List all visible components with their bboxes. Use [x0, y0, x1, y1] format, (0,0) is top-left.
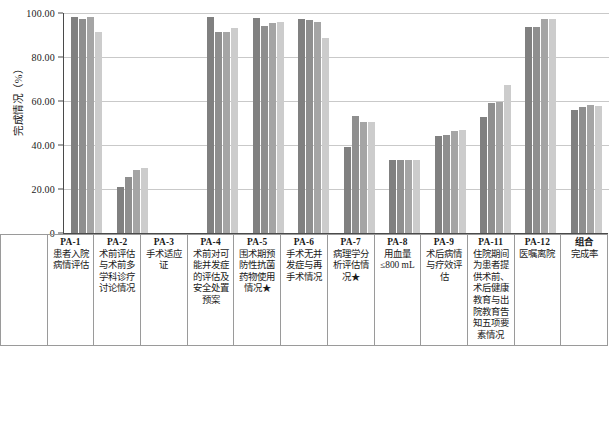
column-header-description: 住院期间为患者提供术前、术后健康教育与出院教育告知五项要素情况 [469, 249, 513, 342]
bar [352, 116, 359, 233]
table-column-header: PA-7病理学分析评估情况★ [327, 235, 374, 346]
bar [261, 26, 268, 233]
bar-chart: 完成情况（%） 020.0040.0060.0080.00100.00 [0, 0, 611, 240]
table-column-header: PA-5围术期预防性抗菌药物使用情况★ [234, 235, 281, 346]
bar [488, 103, 495, 233]
table-column-header: PA-6手术无并发症与再手术情况 [281, 235, 328, 346]
bar [141, 168, 148, 233]
bar [541, 19, 548, 233]
bar [223, 32, 230, 233]
bar-group [518, 13, 563, 233]
chart-and-table-figure: 完成情况（%） 020.0040.0060.0080.00100.00 PA-1… [0, 0, 611, 430]
column-header-description: 术后病情与疗效评估 [422, 249, 466, 284]
table-column-header: PA-11住院期间为患者提供术前、术后健康教育与出院教育告知五项要素情况 [467, 235, 514, 346]
bar [435, 136, 442, 233]
y-tick-label: 20.00 [32, 184, 56, 195]
column-header-code: PA-9 [422, 237, 466, 249]
bar-group [200, 13, 245, 233]
bar [504, 85, 511, 233]
bar-group [337, 13, 382, 233]
bar [480, 117, 487, 233]
bar-group [473, 13, 518, 233]
table-column-header: PA-4术前对可能并发症的评估及安全处置预案 [187, 235, 234, 346]
bar [533, 27, 540, 233]
bar [231, 28, 238, 233]
column-header-code: PA-5 [235, 237, 279, 249]
bar [79, 19, 86, 233]
bar [344, 147, 351, 233]
data-table: PA-1患者入院病情评估PA-2术前评估与术前多学科诊疗讨论情况PA-3手术适应… [0, 234, 608, 346]
bar-group [109, 13, 154, 233]
column-header-description: 医嘱离院 [516, 249, 560, 261]
bar-group [564, 13, 609, 233]
y-tick-label: 40.00 [32, 140, 56, 151]
data-table-wrapper: PA-1患者入院病情评估PA-2术前评估与术前多学科诊疗讨论情况PA-3手术适应… [0, 234, 611, 346]
bar [207, 17, 214, 233]
bar [496, 102, 503, 233]
table-column-header: PA-1患者入院病情评估 [47, 235, 94, 346]
table-column-header: PA-12医嘱离院 [514, 235, 561, 346]
bar [397, 160, 404, 233]
bar [298, 19, 305, 233]
column-header-code: 组合 [562, 237, 606, 249]
column-header-description: 术前评估与术前多学科诊疗讨论情况 [95, 249, 139, 295]
column-header-code: PA-12 [516, 237, 560, 249]
bar [595, 106, 602, 233]
bar [368, 122, 375, 233]
table-column-header: PA-9术后病情与疗效评估 [421, 235, 468, 346]
bar [87, 17, 94, 233]
bar [133, 170, 140, 233]
bar [322, 38, 329, 233]
bar [125, 177, 132, 233]
column-header-code: PA-6 [282, 237, 326, 249]
bar-group [427, 13, 472, 233]
column-header-description: 患者入院病情评估 [49, 249, 93, 272]
column-header-description: 手术无并发症与再手术情况 [282, 249, 326, 284]
column-header-code: PA-3 [142, 237, 186, 249]
bar-group [64, 13, 109, 233]
table-column-header: 组合完成率 [561, 235, 608, 346]
bar [277, 22, 284, 233]
column-header-description: 手术适应证 [142, 249, 186, 272]
column-header-code: PA-1 [49, 237, 93, 249]
column-header-description: 术前对可能并发症的评估及安全处置预案 [189, 249, 233, 307]
column-header-code: PA-2 [95, 237, 139, 249]
bar [451, 131, 458, 233]
column-header-code: PA-7 [329, 237, 373, 249]
column-header-code: PA-11 [469, 237, 513, 249]
column-header-description: 围术期预防性抗菌药物使用情况★ [235, 249, 279, 295]
bar [215, 32, 222, 233]
column-header-code: PA-4 [189, 237, 233, 249]
bar [413, 160, 420, 233]
bar [579, 107, 586, 233]
bar [443, 135, 450, 233]
bar [389, 160, 396, 233]
bar [549, 19, 556, 233]
y-axis-ticks: 020.0040.0060.0080.00100.00 [0, 0, 63, 240]
table-column-header: PA-2术前评估与术前多学科诊疗讨论情况 [94, 235, 141, 346]
bar-series-container [64, 13, 609, 233]
column-header-description: 完成率 [562, 249, 606, 261]
y-tick-label: 80.00 [32, 52, 56, 63]
y-tick-label: 60.00 [32, 96, 56, 107]
table-column-header: PA-3手术适应证 [141, 235, 188, 346]
bar-group [382, 13, 427, 233]
column-header-code: PA-8 [376, 237, 420, 249]
bar [306, 20, 313, 233]
bar [71, 17, 78, 233]
bar [269, 23, 276, 233]
bar [587, 105, 594, 233]
bar-group [246, 13, 291, 233]
bar [405, 160, 412, 233]
y-tick-label: 100.00 [26, 8, 55, 19]
bar [525, 27, 532, 233]
table-header-row: PA-1患者入院病情评估PA-2术前评估与术前多学科诊疗讨论情况PA-3手术适应… [1, 235, 608, 346]
bar [117, 187, 124, 233]
bar [571, 110, 578, 234]
column-header-description: 用血量≤800 mL [376, 249, 420, 272]
plot-area [63, 13, 608, 233]
bar [459, 130, 466, 233]
table-column-header: PA-8用血量≤800 mL [374, 235, 421, 346]
bar [253, 18, 260, 233]
column-header-description: 病理学分析评估情况★ [329, 249, 373, 284]
